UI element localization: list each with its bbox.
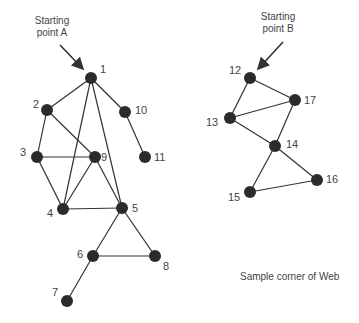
node-label-10: 10 xyxy=(135,104,147,116)
node-2 xyxy=(41,104,53,116)
node-13 xyxy=(224,112,236,124)
edge-1-10 xyxy=(91,78,125,112)
edge-12-17 xyxy=(250,78,295,100)
node-label-13: 13 xyxy=(206,116,218,128)
node-5 xyxy=(116,202,128,214)
edge-9-5 xyxy=(95,157,122,208)
edge-2-9 xyxy=(47,110,95,157)
node-9 xyxy=(89,151,101,163)
node-14 xyxy=(269,140,281,152)
edge-4-5 xyxy=(63,208,122,209)
edge-15-16 xyxy=(250,180,317,192)
node-15 xyxy=(244,186,256,198)
edge-10-11 xyxy=(125,112,145,157)
edges-group xyxy=(37,78,317,301)
edge-1-2 xyxy=(47,78,91,110)
edge-1-5 xyxy=(91,78,122,208)
node-7 xyxy=(61,295,73,307)
node-label-4: 4 xyxy=(47,207,53,219)
node-label-16: 16 xyxy=(326,173,338,185)
node-label-9: 9 xyxy=(101,151,107,163)
edge-3-4 xyxy=(37,157,63,209)
graph-svg: 1239101145687121713141615 Startingpoint … xyxy=(0,0,359,323)
node-label-17: 17 xyxy=(304,94,316,106)
edge-12-13 xyxy=(230,78,250,118)
edge-1-4 xyxy=(63,78,91,209)
node-label-3: 3 xyxy=(20,146,26,158)
start-label-B-line1: Starting xyxy=(261,11,295,22)
edge-5-6 xyxy=(93,208,122,256)
node-10 xyxy=(119,106,131,118)
node-1 xyxy=(85,72,97,84)
node-6 xyxy=(87,250,99,262)
node-label-15: 15 xyxy=(228,191,240,203)
edge-14-16 xyxy=(275,146,317,180)
node-label-12: 12 xyxy=(229,64,241,76)
node-label-8: 8 xyxy=(163,260,169,272)
arrow-icon-B xyxy=(259,42,283,68)
node-label-5: 5 xyxy=(132,202,138,214)
node-16 xyxy=(311,174,323,186)
node-12 xyxy=(244,72,256,84)
node-label-1: 1 xyxy=(100,63,106,75)
edge-13-17 xyxy=(230,100,295,118)
start-label-B-line2: point B xyxy=(262,23,293,34)
node-3 xyxy=(31,151,43,163)
node-8 xyxy=(149,250,161,262)
node-17 xyxy=(289,94,301,106)
edge-13-14 xyxy=(230,118,275,146)
start-label-A-line1: Starting xyxy=(35,15,69,26)
start-label-A-line2: point A xyxy=(37,27,68,38)
edge-6-7 xyxy=(67,256,93,301)
node-11 xyxy=(139,151,151,163)
edge-2-3 xyxy=(37,110,47,157)
node-label-2: 2 xyxy=(33,98,39,110)
node-4 xyxy=(57,203,69,215)
node-label-14: 14 xyxy=(286,138,298,150)
node-label-11: 11 xyxy=(154,151,165,163)
edge-14-15 xyxy=(250,146,275,192)
web-graph-diagram: 1239101145687121713141615 Startingpoint … xyxy=(0,0,359,323)
diagram-caption: Sample corner of Web xyxy=(240,271,340,282)
node-label-7: 7 xyxy=(52,286,58,298)
arrow-icon-A xyxy=(60,45,82,68)
node-label-6: 6 xyxy=(77,248,83,260)
start-labels-group: Startingpoint AStartingpoint B xyxy=(35,11,295,68)
edge-5-8 xyxy=(122,208,155,256)
edge-9-4 xyxy=(63,157,95,209)
